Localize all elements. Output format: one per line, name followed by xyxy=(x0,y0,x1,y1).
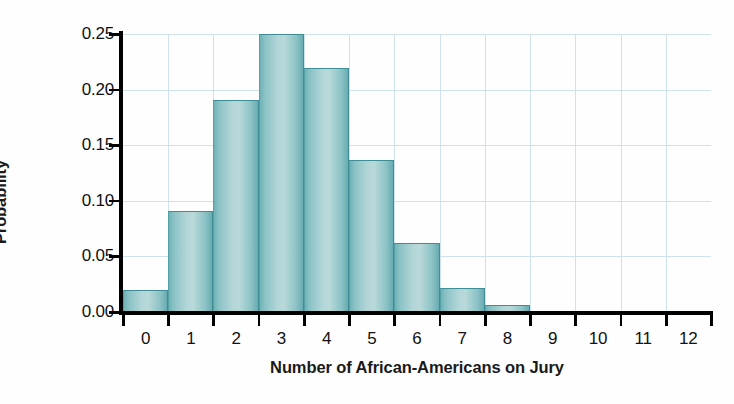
y-axis-spine xyxy=(119,31,123,315)
probability-histogram-figure: Probability 0.000.050.100.150.200.25 012… xyxy=(0,0,734,404)
bar xyxy=(304,68,349,312)
bar xyxy=(123,290,168,312)
x-axis-title: Number of African-Americans on Jury xyxy=(123,358,711,377)
x-tick-mark xyxy=(303,315,306,326)
x-tick-label: 10 xyxy=(589,329,608,349)
bar xyxy=(259,34,304,312)
bar xyxy=(213,100,258,312)
x-tick-label: 12 xyxy=(679,329,698,349)
x-tick-label: 5 xyxy=(367,329,376,349)
y-tick-mark xyxy=(109,255,120,258)
x-axis-spine xyxy=(119,311,713,315)
x-tick-label: 4 xyxy=(322,329,331,349)
x-tick-mark xyxy=(620,315,623,326)
x-tick-mark xyxy=(439,315,442,326)
x-tick-label: 0 xyxy=(141,329,150,349)
x-tick-label: 6 xyxy=(412,329,421,349)
x-tick-label: 1 xyxy=(186,329,195,349)
x-tick-label: 8 xyxy=(503,329,512,349)
x-tick-mark xyxy=(529,315,532,326)
y-tick-mark xyxy=(109,89,120,92)
x-tick-label: 11 xyxy=(635,329,652,349)
x-tick-mark xyxy=(212,315,215,326)
x-tick-label: 3 xyxy=(277,329,286,349)
x-tick-mark xyxy=(665,315,668,326)
bar xyxy=(168,211,213,312)
x-tick-label: 7 xyxy=(458,329,467,349)
x-tick-label: 2 xyxy=(231,329,240,349)
y-tick-mark xyxy=(109,33,120,36)
plot-area xyxy=(123,34,711,312)
y-tick-mark xyxy=(109,144,120,147)
bar xyxy=(394,243,439,312)
x-tick-mark xyxy=(484,315,487,326)
bar xyxy=(349,160,394,312)
bars-group xyxy=(123,34,711,312)
y-tick-mark xyxy=(109,200,120,203)
x-tick-mark xyxy=(167,315,170,326)
x-tick-mark xyxy=(348,315,351,326)
x-tick-mark xyxy=(710,315,713,326)
bar xyxy=(440,288,485,312)
y-axis-tick-labels: 0.000.050.100.150.200.25 xyxy=(38,34,114,312)
x-tick-mark xyxy=(393,315,396,326)
x-tick-mark xyxy=(258,315,261,326)
x-tick-label: 9 xyxy=(548,329,557,349)
x-tick-mark xyxy=(574,315,577,326)
y-tick-mark xyxy=(109,311,120,314)
x-tick-mark xyxy=(122,315,125,326)
